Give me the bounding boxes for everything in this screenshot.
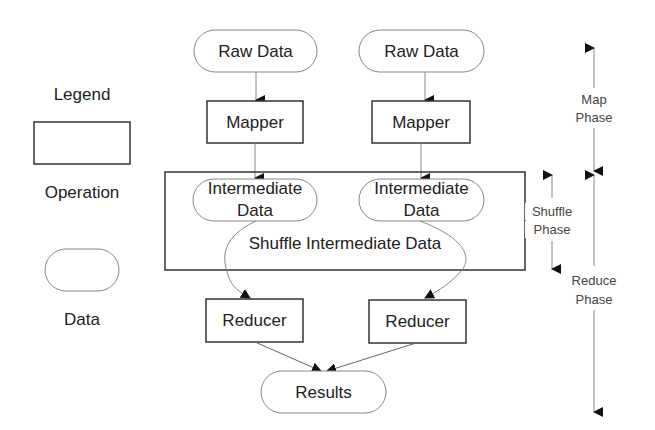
reduce-phase-label-line1: Reduce [564,272,624,289]
map-phase-label-line1: Map [568,91,620,108]
arrow-reducer-to-results-1 [255,342,321,371]
intermediate-label-1-line2: Data [193,201,317,220]
intermediate-label-1-line1: Intermediate [193,179,317,198]
raw-data-label-2: Raw Data [359,42,484,61]
shuffle-curve-right [420,221,466,298]
reducer-label-2: Reducer [369,312,466,331]
mapper-label-2: Mapper [372,113,470,132]
shuffle-curve-left [225,221,256,298]
shuffle-phase-label-line1: Shuffle [525,203,579,220]
intermediate-label-2-line1: Intermediate [359,179,484,198]
reduce-phase-label-line2: Phase [566,291,622,308]
map-phase-label-line2: Phase [566,109,622,126]
legend-operation-label: Operation [24,183,140,202]
shuffle-label: Shuffle Intermediate Data [165,234,525,253]
mapper-label-1: Mapper [207,113,303,132]
intermediate-label-2-line2: Data [359,201,484,220]
arrow-reducer-to-results-2 [327,343,416,371]
shuffle-phase-label-line2: Phase [525,221,579,238]
legend-data-shape [45,249,119,291]
reducer-label-1: Reducer [206,311,303,330]
legend-title: Legend [34,85,130,104]
legend-data-label: Data [34,310,130,329]
results-label: Results [261,383,386,402]
raw-data-label-1: Raw Data [194,42,317,61]
legend-operation-shape [34,122,130,164]
